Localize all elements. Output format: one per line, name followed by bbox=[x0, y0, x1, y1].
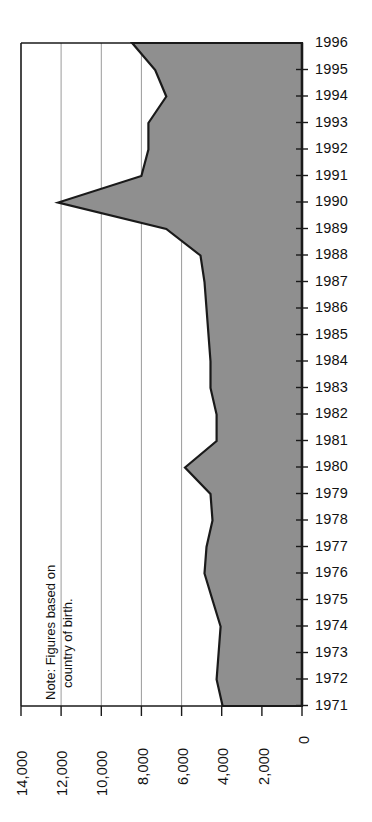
chart-note-line-2: country of birth. bbox=[59, 598, 76, 688]
year-label-1983: 1983 bbox=[315, 379, 348, 395]
year-label-1979: 1979 bbox=[315, 485, 348, 501]
value-tick-marks bbox=[21, 706, 302, 716]
year-label-1988: 1988 bbox=[315, 246, 348, 262]
year-label-1976: 1976 bbox=[315, 564, 348, 580]
year-label-1977: 1977 bbox=[315, 538, 348, 554]
year-label-1994: 1994 bbox=[315, 87, 348, 103]
year-label-1981: 1981 bbox=[315, 432, 348, 448]
year-label-1975: 1975 bbox=[315, 591, 348, 607]
year-label-1972: 1972 bbox=[315, 670, 348, 686]
value-label-4000: 4,000 bbox=[215, 748, 231, 785]
year-label-1990: 1990 bbox=[315, 193, 348, 209]
year-label-1989: 1989 bbox=[315, 220, 348, 236]
year-label-1991: 1991 bbox=[315, 167, 348, 183]
year-label-1978: 1978 bbox=[315, 511, 348, 527]
year-label-1980: 1980 bbox=[315, 458, 348, 474]
year-label-1992: 1992 bbox=[315, 140, 348, 156]
year-label-1973: 1973 bbox=[315, 644, 348, 660]
year-label-1985: 1985 bbox=[315, 326, 348, 342]
year-label-1982: 1982 bbox=[315, 405, 348, 421]
year-label-1974: 1974 bbox=[315, 617, 348, 633]
value-label-2000: 2,000 bbox=[256, 748, 272, 785]
year-label-1995: 1995 bbox=[315, 61, 348, 77]
value-label-8000: 8,000 bbox=[135, 748, 151, 785]
value-label-6000: 6,000 bbox=[175, 748, 191, 785]
year-label-1986: 1986 bbox=[315, 299, 348, 315]
chart-note-line-1: Note: Figures based on bbox=[42, 565, 59, 700]
value-label-0: 0 bbox=[296, 736, 312, 744]
year-label-1993: 1993 bbox=[315, 114, 348, 130]
year-label-1971: 1971 bbox=[315, 697, 348, 713]
value-label-10000: 10,000 bbox=[94, 750, 110, 796]
value-label-14000: 14,000 bbox=[14, 750, 30, 796]
year-label-1996: 1996 bbox=[315, 34, 348, 50]
year-label-1987: 1987 bbox=[315, 273, 348, 289]
year-label-1984: 1984 bbox=[315, 352, 348, 368]
value-label-12000: 12,000 bbox=[54, 750, 70, 796]
chart-container: 1996 1995 1994 1993 1992 1991 1990 1989 … bbox=[0, 0, 372, 822]
